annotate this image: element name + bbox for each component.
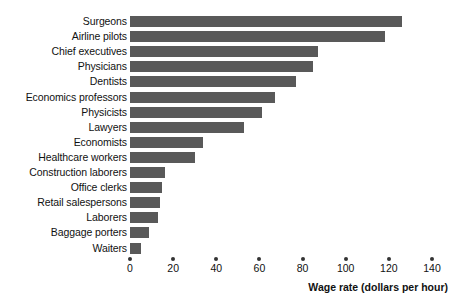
- x-axis-tick-mark: [387, 257, 391, 261]
- bar: [130, 227, 149, 238]
- category-label: Physicists: [81, 105, 127, 120]
- bar-row: Surgeons: [0, 14, 456, 29]
- x-axis-tick-label: 120: [380, 262, 398, 274]
- x-axis-tick-mark: [128, 257, 132, 261]
- x-axis-tick-label: 80: [297, 262, 309, 274]
- bar-row: Economists: [0, 135, 456, 150]
- bar-row: Physicists: [0, 105, 456, 120]
- bar-row: Healthcare workers: [0, 150, 456, 165]
- x-axis-tick-mark: [171, 257, 175, 261]
- bar: [130, 16, 402, 27]
- x-axis-tick-mark: [301, 257, 305, 261]
- wage-rate-bar-chart: Surgeons Airline pilots Chief executives…: [0, 0, 456, 306]
- bar: [130, 92, 275, 103]
- bar: [130, 76, 296, 87]
- category-label: Healthcare workers: [38, 150, 127, 165]
- bar-row: Lawyers: [0, 120, 456, 135]
- bar: [130, 182, 162, 193]
- category-label: Economists: [74, 135, 127, 150]
- bar-row: Waiters: [0, 241, 456, 256]
- x-axis-tick-label: 20: [167, 262, 179, 274]
- bar: [130, 137, 203, 148]
- bar: [130, 61, 313, 72]
- bar-row: Physicians: [0, 59, 456, 74]
- bar: [130, 31, 385, 42]
- category-label: Retail salespersons: [37, 195, 127, 210]
- x-axis-tick-mark: [257, 257, 261, 261]
- category-label: Baggage porters: [51, 225, 127, 240]
- bar-row: Airline pilots: [0, 29, 456, 44]
- x-axis-tick-label: 40: [210, 262, 222, 274]
- x-axis-tick-mark: [214, 257, 218, 261]
- category-label: Economics professors: [26, 90, 127, 105]
- x-axis-tick-mark: [430, 257, 434, 261]
- category-label: Construction laborers: [29, 165, 127, 180]
- x-axis-tick-label: 60: [254, 262, 266, 274]
- bar: [130, 107, 262, 118]
- category-label: Surgeons: [83, 14, 127, 29]
- bar: [130, 122, 244, 133]
- category-label: Laborers: [86, 210, 127, 225]
- bar-row: Retail salespersons: [0, 195, 456, 210]
- x-axis-title: Wage rate (dollars per hour): [0, 281, 448, 293]
- bar: [130, 167, 165, 178]
- bar-row: Dentists: [0, 74, 456, 89]
- category-label: Airline pilots: [72, 29, 127, 44]
- x-axis-tick-mark: [344, 257, 348, 261]
- bar: [130, 197, 160, 208]
- bar: [130, 243, 141, 254]
- category-label: Office clerks: [71, 180, 127, 195]
- bar-row: Baggage porters: [0, 225, 456, 240]
- x-axis-tick-label: 0: [127, 262, 133, 274]
- category-label: Physicians: [78, 59, 127, 74]
- x-axis-tick-label: 140: [423, 262, 441, 274]
- x-axis-tick-label: 100: [337, 262, 355, 274]
- bar-row: Construction laborers: [0, 165, 456, 180]
- bar-row: Office clerks: [0, 180, 456, 195]
- bar-row: Economics professors: [0, 90, 456, 105]
- category-label: Dentists: [90, 74, 127, 89]
- bar-row: Laborers: [0, 210, 456, 225]
- bar: [130, 152, 195, 163]
- bar-row: Chief executives: [0, 44, 456, 59]
- x-axis-tick-labels: 020406080100120140: [0, 262, 456, 276]
- bar: [130, 46, 318, 57]
- category-label: Chief executives: [52, 44, 127, 59]
- category-label: Lawyers: [89, 120, 127, 135]
- bar: [130, 212, 158, 223]
- category-label: Waiters: [93, 241, 128, 256]
